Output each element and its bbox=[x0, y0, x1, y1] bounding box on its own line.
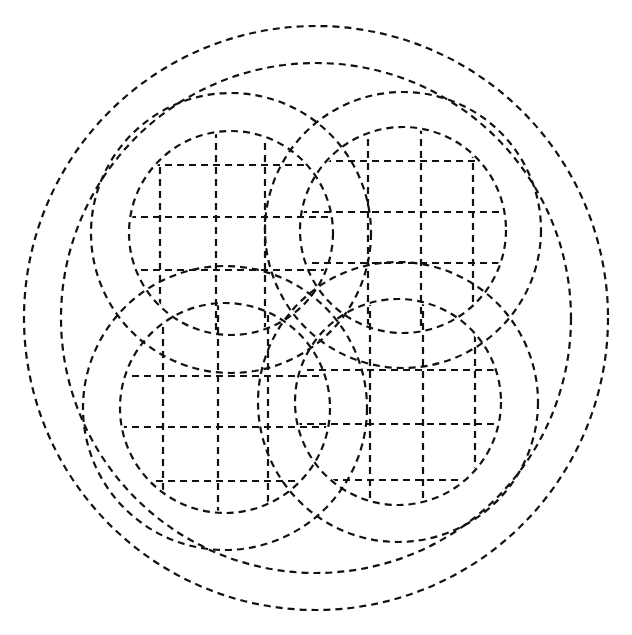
ring-outer-edge bbox=[265, 92, 541, 368]
ring-inner-edge bbox=[295, 299, 501, 505]
ring-outer-edge bbox=[83, 266, 367, 550]
quilt-pattern-drawing bbox=[0, 0, 632, 635]
outer-border-circles bbox=[24, 26, 608, 610]
ring-outer-edge bbox=[91, 93, 371, 373]
inner-border-circle bbox=[61, 63, 571, 573]
outer-border-circle bbox=[24, 26, 608, 610]
ring-inner-edge bbox=[120, 303, 330, 513]
ring-top-left bbox=[91, 93, 371, 373]
ring-bottom-left bbox=[83, 266, 367, 550]
ring-bottom-right bbox=[258, 262, 538, 542]
ring-grids bbox=[120, 127, 506, 513]
ring-inner-edge bbox=[300, 127, 506, 333]
ring-top-right bbox=[265, 92, 541, 368]
ring-outer-edge bbox=[258, 262, 538, 542]
